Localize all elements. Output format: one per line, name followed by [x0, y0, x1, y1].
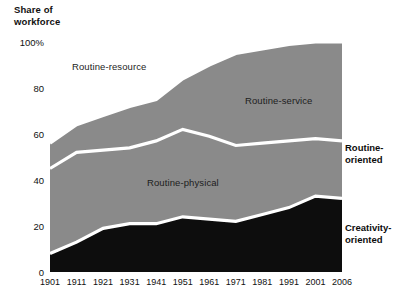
boundary-line-routine-physical-top [50, 129, 342, 168]
legend-creativity-line1: Creativity- [345, 222, 391, 234]
x-tick-label: 1951 [173, 277, 193, 287]
y-tick-label: 40 [33, 175, 44, 186]
x-axis-tick-labels: 1901191119211931194119511961197119811991… [50, 277, 342, 293]
y-tick-label: 0 [39, 267, 44, 278]
legend-creativity-line2: oriented [345, 234, 391, 246]
x-tick-label: 2001 [305, 277, 325, 287]
y-tick-label: 80 [33, 83, 44, 94]
x-tick-label: 1961 [199, 277, 219, 287]
x-tick-label: 1991 [279, 277, 299, 287]
y-tick-label: 100% [20, 37, 44, 48]
series-label-routine-physical: Routine-physical [147, 177, 219, 188]
legend-routine-line2: oriented [345, 154, 384, 166]
stacked-area-svg [50, 42, 342, 272]
area-above-total [50, 42, 342, 143]
series-label-routine-service: Routine-service [245, 95, 313, 106]
x-tick-label: 1931 [120, 277, 140, 287]
series-label-routine-resource: Routine-resource [72, 61, 146, 72]
x-tick-label: 1981 [252, 277, 272, 287]
y-tick-label: 60 [33, 129, 44, 140]
x-tick-label: 2006 [332, 277, 352, 287]
y-tick-label: 20 [33, 221, 44, 232]
workforce-share-area-chart: Share of workforce 020406080100% 1901191… [0, 0, 410, 300]
legend-creativity-oriented: Creativity- oriented [345, 222, 391, 245]
legend-routine-oriented: Routine- oriented [345, 142, 384, 165]
plot-area [50, 42, 342, 272]
x-tick-label: 1921 [93, 277, 113, 287]
x-tick-label: 1941 [146, 277, 166, 287]
legend-routine-line1: Routine- [345, 142, 384, 154]
x-tick-label: 1901 [40, 277, 60, 287]
x-tick-label: 1911 [67, 277, 86, 287]
y-axis-tick-labels: 020406080100% [0, 0, 50, 300]
x-tick-label: 1971 [226, 277, 246, 287]
